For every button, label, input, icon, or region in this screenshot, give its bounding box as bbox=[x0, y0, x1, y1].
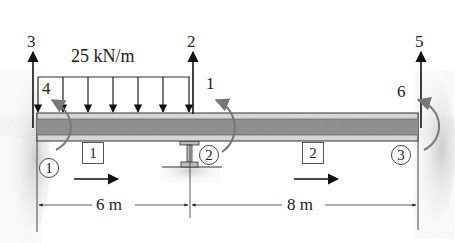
dof5-label: 5 bbox=[415, 33, 424, 50]
dof2-label: 2 bbox=[187, 33, 196, 50]
dof4-label: 4 bbox=[42, 80, 51, 97]
distributed-load-label: 25 kN/m bbox=[71, 47, 135, 65]
element-1-label: 1 bbox=[82, 142, 104, 164]
beam bbox=[37, 113, 418, 141]
dof1-label: 1 bbox=[206, 75, 215, 92]
node-2-label: 2 bbox=[199, 145, 219, 165]
dof3-label: 3 bbox=[27, 33, 36, 50]
span2-dimension: 8 m bbox=[287, 196, 313, 213]
element-2-label: 2 bbox=[302, 142, 324, 164]
node-3-label: 3 bbox=[391, 145, 411, 165]
span1-dimension: 6 m bbox=[96, 196, 122, 213]
right-wall-support bbox=[408, 75, 455, 230]
dof6-label: 6 bbox=[397, 83, 406, 100]
beam-diagram bbox=[0, 0, 455, 243]
node-1-label: 1 bbox=[39, 158, 59, 178]
